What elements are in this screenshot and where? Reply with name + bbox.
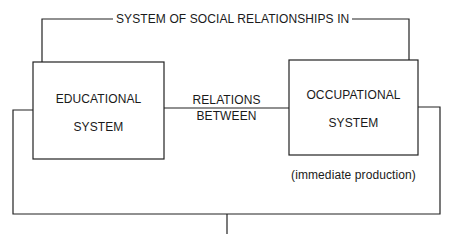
occupational-label-line1: OCCUPATIONAL xyxy=(289,88,418,102)
educational-label-line2: SYSTEM xyxy=(33,120,164,134)
occupational-label-line2: SYSTEM xyxy=(289,116,418,130)
educational-box xyxy=(33,62,164,159)
relations-label-line2: BETWEEN xyxy=(164,109,289,123)
occupational-box xyxy=(289,60,418,155)
relations-label-line1: RELATIONS xyxy=(164,93,289,107)
occupational-note: (immediate production) xyxy=(289,168,418,182)
diagram-title: SYSTEM OF SOCIAL RELATIONSHIPS IN xyxy=(113,12,352,26)
top-bracket-line xyxy=(42,19,113,62)
educational-label-line1: EDUCATIONAL xyxy=(33,92,164,106)
